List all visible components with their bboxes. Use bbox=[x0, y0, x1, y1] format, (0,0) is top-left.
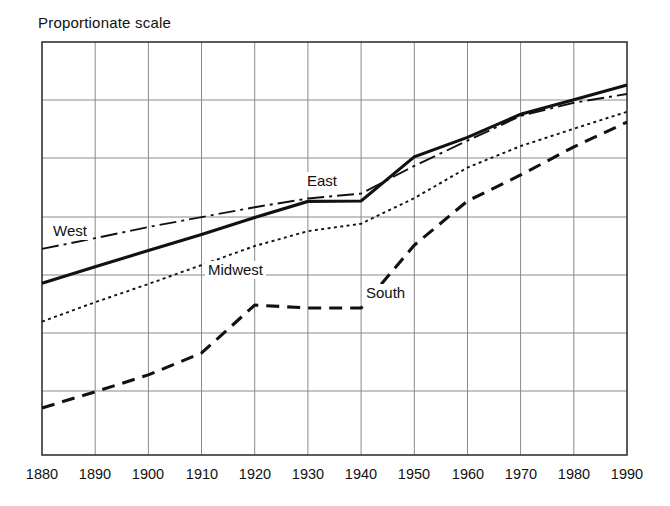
series-label-midwest: Midwest bbox=[205, 261, 266, 279]
xtick-1970: 1970 bbox=[494, 466, 548, 482]
xtick-1940: 1940 bbox=[334, 466, 388, 482]
plot-background bbox=[42, 42, 627, 455]
xtick-1890: 1890 bbox=[68, 466, 122, 482]
series-label-west: West bbox=[50, 222, 90, 240]
xtick-1960: 1960 bbox=[441, 466, 495, 482]
xtick-1990: 1990 bbox=[600, 466, 654, 482]
chart-figure: Proportionate scale bbox=[0, 0, 670, 506]
xtick-1880: 1880 bbox=[15, 466, 69, 482]
xtick-1900: 1900 bbox=[121, 466, 175, 482]
xtick-1930: 1930 bbox=[281, 466, 335, 482]
plot-canvas bbox=[0, 0, 670, 506]
series-label-south: South bbox=[363, 284, 408, 302]
xtick-1980: 1980 bbox=[547, 466, 601, 482]
xtick-1920: 1920 bbox=[228, 466, 282, 482]
xtick-1910: 1910 bbox=[175, 466, 229, 482]
series-label-east: East bbox=[304, 172, 340, 190]
xtick-1950: 1950 bbox=[387, 466, 441, 482]
